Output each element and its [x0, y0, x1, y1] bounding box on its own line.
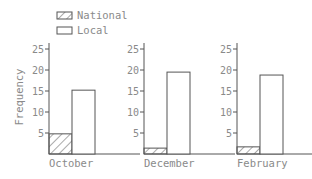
panel-february: 510152025February: [220, 43, 312, 169]
y-tick-label: 15: [220, 86, 232, 97]
y-tick-label: 15: [127, 86, 139, 97]
legend-label-national: National: [77, 9, 128, 21]
y-tick-label: 20: [220, 65, 232, 76]
bar-national-december: [144, 148, 167, 154]
y-tick-label: 10: [32, 107, 44, 118]
y-tick-label: 15: [32, 86, 44, 97]
y-tick-label: 20: [32, 65, 44, 76]
x-category-label: October: [49, 157, 93, 169]
y-tick-label: 20: [127, 65, 139, 76]
bar-national-october: [49, 134, 72, 154]
y-tick-label: 5: [226, 128, 232, 139]
bar-national-february: [237, 147, 260, 154]
bar-local-december: [167, 72, 190, 154]
legend-swatch-local: [57, 27, 72, 34]
y-tick-label: 10: [220, 107, 232, 118]
bar-local-october: [72, 90, 95, 154]
y-tick-label: 25: [220, 44, 232, 55]
bar-local-february: [260, 75, 283, 154]
legend-swatch-national: [57, 12, 72, 19]
x-category-label: February: [237, 157, 288, 169]
y-tick-label: 5: [133, 128, 139, 139]
y-axis-label: Frequency: [13, 69, 25, 126]
legend-label-local: Local: [77, 24, 109, 36]
x-category-label: December: [144, 157, 195, 169]
chart: National Local Frequency 510152025Octobe…: [0, 0, 312, 179]
panel-october: 510152025October: [32, 43, 140, 169]
y-tick-label: 25: [32, 44, 44, 55]
y-tick-label: 5: [38, 128, 44, 139]
y-tick-label: 10: [127, 107, 139, 118]
y-tick-label: 25: [127, 44, 139, 55]
panel-december: 510152025December: [127, 43, 235, 169]
legend: National Local: [57, 9, 128, 36]
